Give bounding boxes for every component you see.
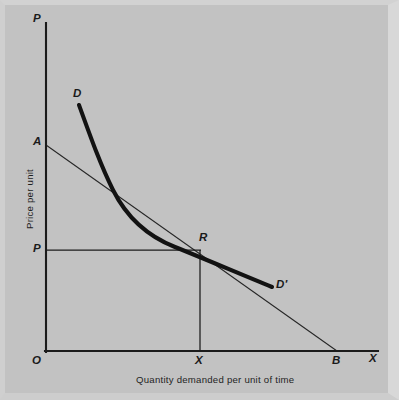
tangent-x-intercept-label-b: B (332, 355, 341, 367)
price-level-label-p: P (33, 243, 41, 255)
origin-label: O (32, 355, 41, 367)
tangent-line-ab (46, 145, 337, 351)
tangent-y-intercept-label-a: A (33, 136, 42, 148)
x-axis-caption: Quantity demanded per unit of time (136, 375, 294, 385)
demand-curve-dd (79, 105, 272, 287)
y-axis-caption: Price per unit (25, 169, 35, 229)
diagram-canvas (0, 0, 399, 400)
y-axis-tip-label: P (33, 13, 41, 25)
curve-end-label-d-prime: D' (276, 279, 287, 291)
curve-start-label-d: D (73, 88, 82, 100)
x-axis-tip-label: X (369, 353, 377, 365)
tangency-point-label-r: R (199, 232, 208, 244)
demand-curve-figure: P X O D D' A B P X R Price per unit Quan… (0, 0, 399, 400)
quantity-level-label-x: X (195, 355, 203, 367)
